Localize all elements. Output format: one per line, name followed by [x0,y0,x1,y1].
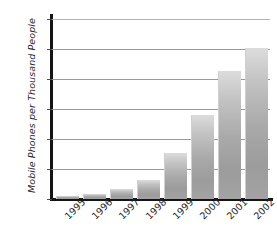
bar-chart: Mobile Phones per Thousand People 300 25… [0,0,277,246]
y-tick-mark-0 [47,199,52,200]
gridline-300 [52,19,270,20]
bar-2002 [245,48,268,199]
y-tick-mark-100 [47,139,52,140]
y-tick-mark-50 [47,169,52,170]
plot-area [52,19,270,199]
y-tick-mark-200 [47,79,52,80]
bar-2001 [218,71,241,199]
y-axis-title: Mobile Phones per Thousand People [26,16,37,196]
bar-2000 [191,115,214,199]
gridline-250 [52,49,270,50]
y-tick-mark-150 [47,109,52,110]
y-tick-mark-300 [47,19,52,20]
y-tick-mark-250 [47,49,52,50]
bar-1999 [164,153,187,199]
